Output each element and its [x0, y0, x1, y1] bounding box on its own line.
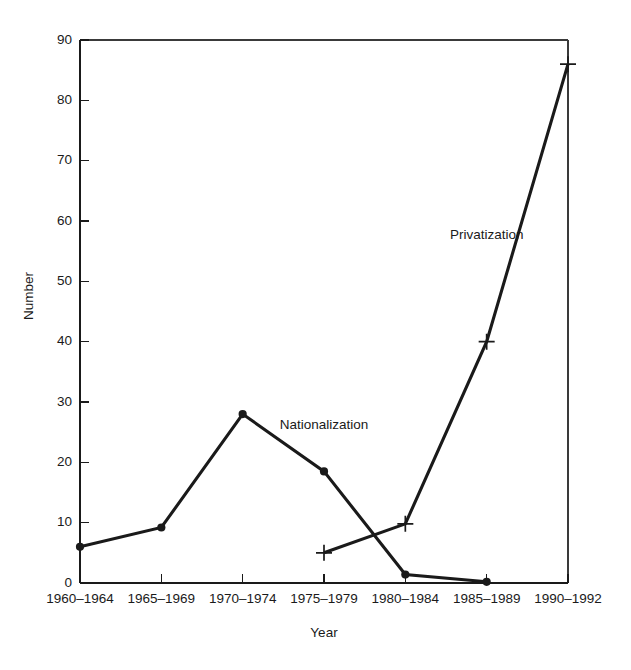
data-point-marker	[76, 543, 84, 551]
x-tick-label: 1965–1969	[128, 591, 196, 606]
line-chart: 0102030405060708090 Number 1960–19641965…	[0, 0, 631, 670]
data-point-marker	[320, 467, 328, 475]
y-tick-label: 40	[57, 333, 72, 348]
data-point-marker	[483, 578, 491, 586]
y-tick-label: 70	[57, 152, 72, 167]
x-tick-label: 1985–1989	[453, 591, 521, 606]
x-tick-label: 1960–1964	[46, 591, 114, 606]
y-tick-label: 0	[64, 575, 72, 590]
y-tick-label: 10	[57, 514, 72, 529]
data-point-marker	[157, 523, 165, 531]
y-tick-label: 20	[57, 454, 72, 469]
data-point-marker	[401, 570, 409, 578]
x-tick-label: 1990–1992	[534, 591, 602, 606]
y-tick-label: 50	[57, 273, 72, 288]
series-label-nationalization: Nationalization	[280, 417, 369, 432]
data-point-marker	[239, 410, 247, 418]
y-tick-label: 90	[57, 32, 72, 47]
chart-background	[0, 0, 631, 670]
y-tick-label: 80	[57, 92, 72, 107]
y-tick-label: 30	[57, 394, 72, 409]
series-label-privatization: Privatization	[450, 227, 524, 242]
x-tick-label: 1980–1984	[372, 591, 440, 606]
x-tick-label: 1975–1979	[290, 591, 358, 606]
y-tick-label: 60	[57, 213, 72, 228]
x-axis-title: Year	[310, 625, 338, 640]
x-tick-label: 1970–1974	[209, 591, 277, 606]
y-axis-title: Number	[21, 271, 36, 320]
chart-container: 0102030405060708090 Number 1960–19641965…	[0, 0, 631, 670]
